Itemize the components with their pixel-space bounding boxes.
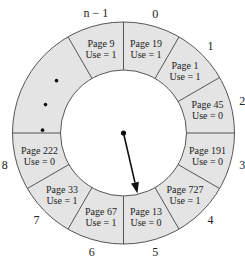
slot-index-label: 7 xyxy=(34,213,40,227)
use-bit-label: Use = 0 xyxy=(24,156,55,167)
page-label: Page 45 xyxy=(192,99,224,110)
slot-index-label: 0 xyxy=(152,7,158,21)
use-bit-label: Use = 0 xyxy=(192,156,223,167)
use-bit-label: Use = 0 xyxy=(130,217,161,228)
slot-index-label: 5 xyxy=(152,245,158,259)
page-label: Page 222 xyxy=(21,145,58,156)
page-label: Page 1 xyxy=(172,60,199,71)
page-label: Page 19 xyxy=(130,38,162,49)
page-label: Page 9 xyxy=(88,38,115,49)
use-bit-label: Use = 1 xyxy=(169,195,200,206)
slot-index-label: n − 1 xyxy=(83,6,108,20)
page-label: Page 33 xyxy=(46,184,78,195)
page-label: Page 13 xyxy=(130,206,162,217)
slot-index-label: 1 xyxy=(207,39,213,53)
page-label: Page 191 xyxy=(189,145,226,156)
ellipsis-dot xyxy=(55,79,59,83)
use-bit-label: Use = 1 xyxy=(169,71,200,82)
slot-index-label: 4 xyxy=(207,213,213,227)
use-bit-label: Use = 1 xyxy=(85,49,116,60)
slot-index-label: 8 xyxy=(2,158,8,172)
ellipsis-dot xyxy=(41,128,45,132)
use-bit-label: Use = 1 xyxy=(46,195,77,206)
slot-index-label: 2 xyxy=(239,94,245,108)
clock-diagram: Page 19Use = 10Page 1Use = 11Page 45Use … xyxy=(0,0,245,263)
ellipsis-dot xyxy=(44,103,48,107)
slot-index-label: 6 xyxy=(89,245,95,259)
page-label: Page 67 xyxy=(85,206,117,217)
use-bit-label: Use = 1 xyxy=(85,217,116,228)
slot-index-label: 3 xyxy=(239,158,245,172)
page-label: Page 727 xyxy=(167,184,204,195)
use-bit-label: Use = 0 xyxy=(192,110,223,121)
use-bit-label: Use = 1 xyxy=(130,49,161,60)
